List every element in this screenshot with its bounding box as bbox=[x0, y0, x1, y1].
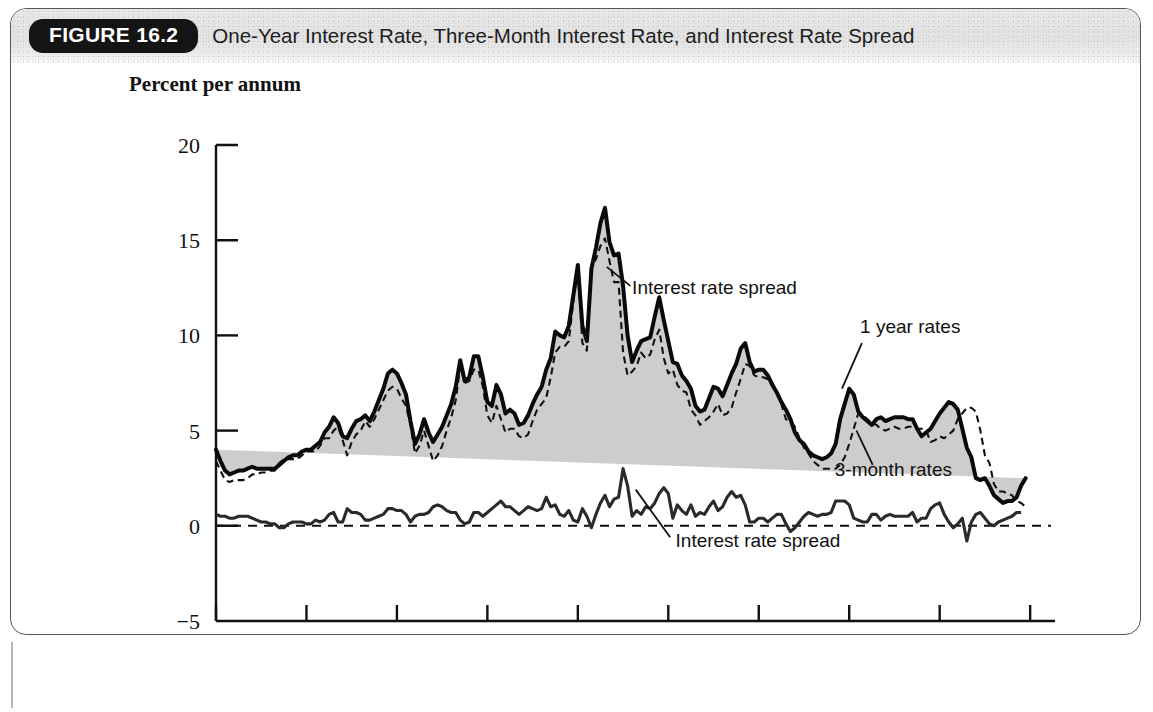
y-tick-label: 15 bbox=[178, 228, 200, 253]
chart-annotation: 3-month rates bbox=[835, 459, 952, 480]
x-tick-label: 1980 bbox=[556, 634, 600, 635]
x-tick-label: 1975 bbox=[465, 634, 509, 635]
chart-plot-area: Percent per annum20151050−51960196519701… bbox=[11, 63, 1141, 635]
figure-header: FIGURE 16.2 One-Year Interest Rate, Thre… bbox=[11, 9, 1140, 63]
chart-annotation: Interest rate spread bbox=[676, 530, 841, 551]
x-tick-label: 1960 bbox=[194, 634, 238, 635]
y-tick-label: 10 bbox=[178, 323, 200, 348]
figure-container: FIGURE 16.2 One-Year Interest Rate, Thre… bbox=[10, 8, 1141, 635]
x-tick-label: 1990 bbox=[737, 634, 781, 635]
figure-title: One-Year Interest Rate, Three-Month Inte… bbox=[212, 24, 914, 48]
x-tick-label: 1970 bbox=[375, 634, 419, 635]
x-tick-label: 1965 bbox=[284, 634, 328, 635]
y-tick-label: −5 bbox=[177, 609, 200, 634]
x-tick-label: 1995 bbox=[827, 634, 871, 635]
x-tick-label: 2000 bbox=[918, 634, 962, 635]
y-tick-label: 0 bbox=[189, 514, 200, 539]
y-tick-label: 20 bbox=[178, 133, 200, 158]
page-margin-rule bbox=[11, 642, 13, 708]
chart-annotation: 1 year rates bbox=[860, 316, 960, 337]
y-tick-label: 5 bbox=[189, 419, 200, 444]
x-tick-label: 2005 bbox=[1008, 634, 1052, 635]
chart-annotation: Interest rate spread bbox=[632, 277, 797, 298]
interest-rate-chart: Percent per annum20151050−51960196519701… bbox=[11, 63, 1141, 635]
figure-number-badge: FIGURE 16.2 bbox=[29, 19, 198, 52]
annotation-leader-line bbox=[842, 343, 862, 389]
x-tick-label: 1985 bbox=[646, 634, 690, 635]
y-axis-label: Percent per annum bbox=[129, 72, 301, 96]
